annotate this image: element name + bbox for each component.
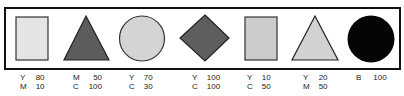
circle-swatch-7 (348, 16, 395, 63)
ink-name: M (20, 82, 27, 91)
ink-value: 50 (262, 82, 271, 91)
triangle-swatch-2 (64, 16, 109, 60)
swatch-label-4: Y 100 C 100 (192, 73, 220, 91)
ink-value: 10 (36, 82, 45, 91)
ink-name: C (129, 82, 135, 91)
triangle-swatch-6 (292, 16, 338, 60)
swatch-label-3: Y 70 C 30 (129, 73, 153, 91)
ink-value: 100 (207, 73, 220, 82)
ink-value: 30 (144, 82, 153, 91)
ink-value: 50 (319, 82, 328, 91)
ink-value: 20 (319, 73, 328, 82)
ink-value: 10 (262, 73, 271, 82)
ink-name: Y (129, 73, 135, 82)
diamond-swatch-4 (180, 15, 229, 61)
ink-value: 50 (89, 73, 102, 82)
ink-name: Y (20, 73, 27, 82)
ink-name: Y (247, 73, 253, 82)
ink-name: M (303, 82, 310, 91)
ink-name: B (356, 73, 361, 82)
ink-name: Y (192, 73, 198, 82)
circle-swatch-3 (120, 16, 165, 61)
swatch-label-7: B 100 (356, 73, 387, 82)
ink-name: C (192, 82, 198, 91)
ink-value: 80 (36, 73, 45, 82)
ink-value: 100 (373, 73, 386, 82)
rectangle-swatch-5 (245, 17, 277, 60)
swatch-label-5: Y 10 C 50 (247, 73, 271, 91)
swatch-label-6: Y 20 M 50 (303, 73, 328, 91)
ink-name: C (73, 82, 80, 91)
swatch-label-1: Y 80 M 10 (20, 73, 45, 91)
ink-name: M (73, 73, 80, 82)
ink-name: C (247, 82, 253, 91)
ink-name: Y (303, 73, 310, 82)
rectangle-swatch-1 (16, 17, 48, 60)
ink-value: 100 (207, 82, 220, 91)
ink-value: 70 (144, 73, 153, 82)
swatch-label-2: M 50 C 100 (73, 73, 102, 91)
ink-value: 100 (89, 82, 102, 91)
